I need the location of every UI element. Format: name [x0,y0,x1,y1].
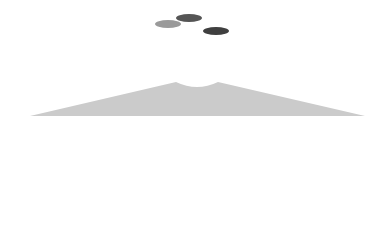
callout-predictive [155,20,181,28]
callout-optimized-2 [203,27,229,35]
callout-optimized [176,14,202,22]
summary-pie-chart [169,32,225,88]
